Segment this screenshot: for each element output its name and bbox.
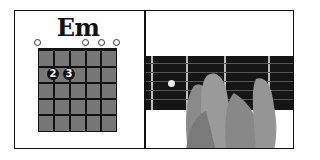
chord-name: Em xyxy=(38,14,118,42)
open-string-marker-4 xyxy=(82,39,89,46)
string-line xyxy=(53,51,55,131)
open-string-marker-6 xyxy=(113,39,120,46)
finger-dot-2: 2 xyxy=(47,68,59,80)
chord-diagram-grid xyxy=(38,48,117,132)
fret-line xyxy=(39,114,116,116)
string-line xyxy=(100,51,102,131)
open-string-marker-1 xyxy=(34,39,41,46)
open-string-marker-5 xyxy=(98,39,105,46)
hand-fretting-em-chord-photo xyxy=(146,11,293,148)
string-line xyxy=(85,51,87,131)
string-line xyxy=(69,51,71,131)
fret-line xyxy=(39,82,116,84)
fret-line xyxy=(39,98,116,100)
finger-dot-3: 3 xyxy=(63,68,75,80)
hand-icon xyxy=(146,11,293,148)
